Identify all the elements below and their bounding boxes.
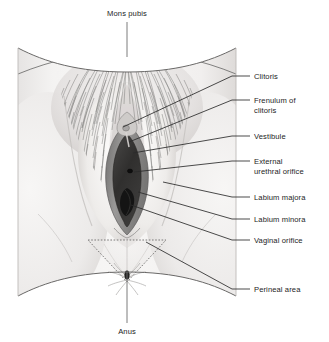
diagram-svg: Mons pubis Clitoris Frenulum of clitoris… <box>0 0 329 342</box>
label-labium-majora: Labium majora <box>254 193 306 202</box>
label-external-urethral-orifice-line1: External <box>254 157 283 166</box>
label-clitoris: Clitoris <box>254 72 278 81</box>
label-vestibule: Vestibule <box>254 132 286 141</box>
label-anus: Anus <box>118 327 136 336</box>
anatomical-diagram: Mons pubis Clitoris Frenulum of clitoris… <box>0 0 329 342</box>
label-frenulum-of-clitoris-line2: clitoris <box>254 106 276 115</box>
label-vaginal-orifice: Vaginal orifice <box>254 236 303 245</box>
label-labium-minora: Labium minora <box>254 215 306 224</box>
body-region <box>0 48 268 308</box>
label-mons-pubis: Mons pubis <box>107 9 147 18</box>
external-urethral-orifice <box>127 169 132 173</box>
label-external-urethral-orifice-line2: urethral orifice <box>254 167 304 176</box>
label-perineal-area: Perineal area <box>254 285 301 294</box>
label-frenulum-of-clitoris-line1: Frenulum of <box>254 96 296 105</box>
